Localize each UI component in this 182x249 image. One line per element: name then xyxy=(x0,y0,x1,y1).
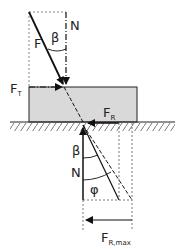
friction-cone-diagram: N β F FT FR β N φ FR,max xyxy=(0,0,182,249)
tangential-label: FT xyxy=(10,81,22,98)
force-label: F xyxy=(34,36,41,51)
max-friction-label: FR,max xyxy=(101,230,131,247)
beta-bottom-label: β xyxy=(72,143,80,158)
beta-arc-bottom xyxy=(83,155,98,158)
normal-bottom-label: N xyxy=(71,165,81,180)
beta-top-label: β xyxy=(51,30,59,45)
resultant-line xyxy=(83,125,119,200)
ground-hatch xyxy=(10,123,175,131)
normal-top-label: N xyxy=(70,18,80,33)
block xyxy=(29,87,137,122)
beta-arc-top xyxy=(48,49,66,51)
phi-label: φ xyxy=(90,182,99,197)
